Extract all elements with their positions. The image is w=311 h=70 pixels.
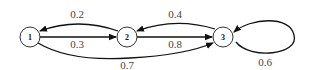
edge-label-1-to-2: 0.3 — [70, 38, 84, 50]
edge-label-2-to-1: 0.2 — [70, 8, 84, 20]
edge-2-to-1 — [40, 24, 118, 31]
node-2: 2 — [117, 27, 137, 47]
edge-label-3-to-2: 0.4 — [168, 8, 182, 20]
node-1-label: 1 — [28, 33, 32, 42]
node-2-label: 2 — [125, 33, 129, 42]
edge-label-2-to-3: 0.8 — [168, 38, 182, 50]
edge-label-3-to-3: 0.6 — [258, 56, 272, 68]
edge-3-to-3 — [234, 21, 294, 53]
edge-3-to-2 — [137, 23, 215, 31]
node-3: 3 — [213, 27, 233, 47]
state-diagram: 0.2 0.3 0.4 0.8 0.7 0.6 1 2 3 — [0, 0, 311, 70]
edge-label-1-to-3: 0.7 — [120, 59, 134, 70]
node-3-label: 3 — [221, 33, 225, 42]
node-1: 1 — [20, 27, 40, 47]
